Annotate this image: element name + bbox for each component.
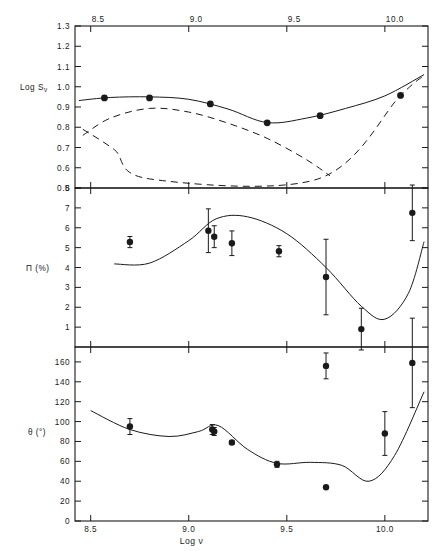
three-panel-spectrum-figure: 1.31.21.11.00.90.80.70.60.5Log Sν8765432… bbox=[0, 0, 444, 551]
y-tick-label-top-4: 0.9 bbox=[57, 103, 70, 112]
x-tick-label-top-1: 9.0 bbox=[190, 15, 203, 24]
y-tick-label-bottom-8: 0 bbox=[65, 517, 70, 526]
panel-frame-top bbox=[75, 26, 428, 188]
y-tick-label-top-0: 1.3 bbox=[57, 22, 70, 31]
x-tick-label-bottom-0: 8.5 bbox=[84, 525, 97, 534]
y-tick-label-middle-3: 5 bbox=[65, 244, 70, 253]
y-tick-label-bottom-3: 100 bbox=[55, 418, 70, 427]
figure-panel-container: 1.31.21.11.00.90.80.70.60.5Log Sν8765432… bbox=[0, 0, 444, 551]
y-tick-label-top-3: 1.0 bbox=[57, 83, 70, 92]
data-point-middle-5 bbox=[323, 274, 329, 280]
y-tick-label-middle-4: 4 bbox=[65, 264, 70, 273]
data-point-top-1 bbox=[146, 94, 153, 101]
data-point-middle-0 bbox=[127, 239, 133, 245]
x-tick-label-bottom-2: 9.5 bbox=[280, 525, 293, 534]
data-point-bottom-8 bbox=[409, 360, 415, 366]
y-tick-label-top-7: 0.6 bbox=[57, 164, 70, 173]
data-point-middle-7 bbox=[409, 210, 415, 216]
y-tick-label-bottom-2: 120 bbox=[55, 398, 70, 407]
x-axis-title: Log ν bbox=[180, 536, 204, 546]
data-point-top-5 bbox=[397, 92, 404, 99]
y-tick-label-bottom-5: 60 bbox=[60, 457, 70, 466]
data-point-middle-4 bbox=[276, 248, 282, 254]
y-tick-label-bottom-6: 40 bbox=[60, 477, 70, 486]
y-tick-label-top-2: 1.1 bbox=[57, 63, 70, 72]
data-point-bottom-5 bbox=[323, 363, 329, 369]
x-tick-label-top-2: 9.5 bbox=[288, 15, 301, 24]
x-tick-label-top-3: 10.0 bbox=[386, 15, 404, 24]
data-point-bottom-7 bbox=[382, 430, 388, 436]
y-tick-label-middle-2: 6 bbox=[65, 224, 70, 233]
data-point-middle-3 bbox=[229, 240, 235, 246]
data-point-bottom-4 bbox=[274, 461, 280, 467]
y-tick-label-top-5: 0.8 bbox=[57, 123, 70, 132]
y-tick-label-bottom-7: 20 bbox=[60, 497, 70, 506]
data-point-top-0 bbox=[101, 94, 108, 101]
data-point-middle-1 bbox=[205, 228, 211, 234]
curve-bottom-0 bbox=[91, 392, 424, 482]
curve-top-0 bbox=[79, 75, 424, 123]
y-tick-label-middle-6: 2 bbox=[65, 303, 70, 312]
curve-middle-0 bbox=[114, 215, 424, 319]
y-tick-label-middle-1: 7 bbox=[65, 204, 70, 213]
figure-root: 1.31.21.11.00.90.80.70.60.5Log Sν8765432… bbox=[20, 15, 428, 546]
data-point-bottom-0 bbox=[127, 423, 133, 429]
panel-top: 1.31.21.11.00.90.80.70.60.5Log Sν bbox=[20, 22, 428, 193]
panel-middle: 87654321Π (%) bbox=[26, 184, 428, 350]
y-tick-label-middle-7: 1 bbox=[65, 323, 70, 332]
y-tick-label-bottom-0: 160 bbox=[55, 358, 70, 367]
data-point-middle-6 bbox=[358, 326, 364, 332]
panel-bottom: 160140120100806040200θ (°) bbox=[28, 318, 428, 526]
data-point-bottom-2 bbox=[211, 428, 217, 434]
y-tick-label-middle-5: 3 bbox=[65, 283, 70, 292]
y-axis-title-top: Log Sν bbox=[20, 83, 48, 93]
data-point-bottom-6 bbox=[323, 484, 329, 490]
data-point-top-4 bbox=[317, 112, 324, 119]
data-point-bottom-3 bbox=[229, 439, 235, 445]
y-tick-label-middle-0: 8 bbox=[65, 184, 70, 193]
x-tick-label-bottom-3: 10.0 bbox=[376, 525, 394, 534]
y-tick-label-top-1: 1.2 bbox=[57, 42, 70, 51]
y-tick-label-top-6: 0.7 bbox=[57, 144, 70, 153]
data-point-top-3 bbox=[264, 119, 271, 126]
y-tick-label-bottom-4: 80 bbox=[60, 437, 70, 446]
x-tick-label-top-0: 8.5 bbox=[92, 15, 105, 24]
curve-top-1 bbox=[83, 108, 330, 176]
data-point-middle-2 bbox=[211, 233, 217, 239]
y-axis-title-bottom: θ (°) bbox=[28, 428, 46, 437]
data-point-top-2 bbox=[207, 101, 214, 108]
x-tick-label-bottom-1: 9.0 bbox=[182, 525, 195, 534]
panel-frame-middle bbox=[75, 188, 428, 347]
y-tick-label-bottom-1: 140 bbox=[55, 378, 70, 387]
curve-top-2 bbox=[83, 76, 424, 187]
y-axis-title-middle: Π (%) bbox=[26, 264, 49, 273]
